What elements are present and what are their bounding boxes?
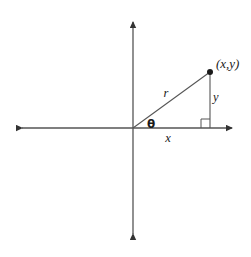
angle-theta-label: θ (147, 117, 155, 131)
coordinate-diagram: (x,y) r θ x y (0, 0, 251, 257)
radius-segment (133, 72, 210, 128)
horizontal-leg-label: x (164, 131, 171, 145)
labels-group: (x,y) r θ x y (147, 56, 239, 145)
point-marker (207, 69, 213, 75)
triangle-group (133, 69, 213, 128)
diagram-svg: (x,y) r θ x y (0, 0, 251, 257)
point-label: (x,y) (216, 56, 239, 71)
right-angle-marker (201, 119, 210, 128)
vertical-leg-label: y (211, 90, 219, 104)
radius-label: r (164, 86, 169, 100)
